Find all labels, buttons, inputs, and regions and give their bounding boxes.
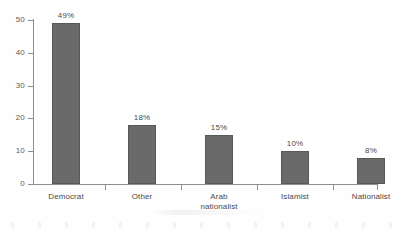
bar-value-democrat: 49% — [42, 12, 90, 20]
bar-value-nationalist: 8% — [347, 147, 395, 155]
y-axis-tick-label: 30 — [1, 82, 25, 90]
bar-other — [128, 125, 156, 184]
y-axis-tick-50: 50 — [0, 16, 25, 25]
x-axis-tick-mark-4 — [333, 185, 334, 190]
y-axis-tick-mark-20 — [28, 118, 33, 119]
y-axis-tick-mark-10 — [28, 151, 33, 152]
scan-artifact-caption-line — [0, 222, 404, 228]
y-axis-tick-10: 10 — [0, 147, 25, 156]
x-axis-label-nationalist: Nationalist — [331, 192, 404, 202]
y-axis-tick-mark-40 — [28, 53, 33, 54]
x-axis-line — [33, 184, 378, 185]
y-axis-tick-label: 40 — [1, 49, 25, 57]
bar-nationalist — [357, 158, 385, 184]
y-axis-tick-label: 10 — [1, 147, 25, 155]
scan-artifact-text-remnant — [150, 210, 260, 215]
y-axis-tick-label: 50 — [1, 16, 25, 24]
x-axis-label-line1: Democrat — [26, 192, 106, 202]
x-axis-tick-mark-1 — [105, 185, 106, 190]
y-axis-tick-label: 0 — [1, 180, 25, 188]
y-axis-tick-0: 0 — [0, 180, 25, 189]
y-axis-tick-40: 40 — [0, 49, 25, 58]
y-axis-tick-mark-30 — [28, 86, 33, 87]
bar-arab-nationalist — [205, 135, 233, 184]
y-axis-tick-mark-50 — [28, 20, 33, 21]
x-axis-label-islamist: Islamist — [255, 192, 335, 202]
x-axis-label-line1: Arab — [179, 192, 259, 202]
y-axis-tick-20: 20 — [0, 114, 25, 123]
x-axis-label-line1: Other — [102, 192, 182, 202]
y-axis-tick-30: 30 — [0, 82, 25, 91]
y-axis-tick-label: 20 — [1, 114, 25, 122]
x-axis-label-other: Other — [102, 192, 182, 202]
y-axis-tick-mark-0 — [28, 184, 33, 185]
bar-value-islamist: 10% — [271, 140, 319, 148]
x-axis-label-arab-nationalist: Arab nationalist — [179, 192, 259, 212]
x-axis-tick-mark-end — [377, 185, 378, 190]
bar-value-arab-nationalist: 15% — [195, 124, 243, 132]
x-axis-tick-mark-3 — [257, 185, 258, 190]
x-axis-label-line1: Nationalist — [331, 192, 404, 202]
y-axis-line — [33, 19, 34, 185]
x-axis-tick-mark-2 — [181, 185, 182, 190]
bar-democrat — [52, 23, 80, 184]
x-axis-label-democrat: Democrat — [26, 192, 106, 202]
x-axis-label-line1: Islamist — [255, 192, 335, 202]
bar-islamist — [281, 151, 309, 184]
bar-value-other: 18% — [118, 114, 166, 122]
bar-chart: 50 40 30 20 10 0 49% 18% 15% 10% 8% Demo… — [0, 0, 404, 230]
